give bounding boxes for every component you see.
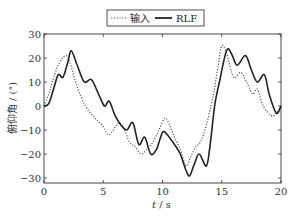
x-tick-label: 10 xyxy=(156,186,169,197)
series-line-rlf xyxy=(44,49,281,176)
y-tick-label: −30 xyxy=(20,173,41,184)
series-group xyxy=(44,45,281,175)
legend-label-rlf: RLF xyxy=(176,13,197,24)
legend: 输入 RLF xyxy=(107,10,204,26)
x-tick-label: 5 xyxy=(100,186,106,197)
tick-labels: 05101520−30−20−100102030 xyxy=(20,29,287,198)
x-tick-label: 20 xyxy=(275,186,288,197)
legend-label-input: 输入 xyxy=(130,12,150,24)
y-tick-label: 10 xyxy=(28,77,41,88)
y-axis-label: 俯仰角 / (°) xyxy=(6,82,18,135)
x-tick-label: 0 xyxy=(41,186,47,197)
x-tick-label: 15 xyxy=(215,186,228,197)
y-tick-label: 0 xyxy=(35,101,41,112)
y-tick-label: −20 xyxy=(20,149,41,160)
x-axis-unit: / s xyxy=(156,199,171,210)
series-line-input xyxy=(44,45,281,166)
y-tick-label: 20 xyxy=(28,53,41,64)
y-tick-label: 30 xyxy=(28,29,41,40)
x-axis-label: t / s xyxy=(152,199,171,210)
pitch-angle-chart: 输入 RLF 05101520−30−20−100102030 t / s 俯仰… xyxy=(0,0,296,217)
y-tick-label: −10 xyxy=(20,125,41,136)
